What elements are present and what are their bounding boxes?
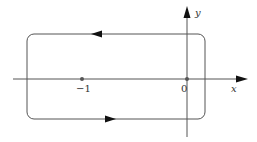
x-axis (13, 76, 248, 83)
contour-diagram: −1 0 x y (0, 0, 257, 142)
y-axis-arrow-icon (184, 6, 191, 18)
y-axis-label: y (194, 7, 201, 18)
y-axis (184, 6, 191, 137)
top-left-arrow-icon (91, 31, 102, 38)
point-minus-one (80, 77, 84, 81)
label-minus-one: −1 (76, 83, 91, 94)
x-axis-arrow-icon (236, 76, 248, 83)
contour-rectangle (27, 34, 205, 119)
x-axis-label: x (231, 83, 237, 94)
bottom-right-arrow-icon (105, 116, 116, 123)
label-origin: 0 (181, 83, 187, 94)
point-origin (185, 77, 189, 81)
